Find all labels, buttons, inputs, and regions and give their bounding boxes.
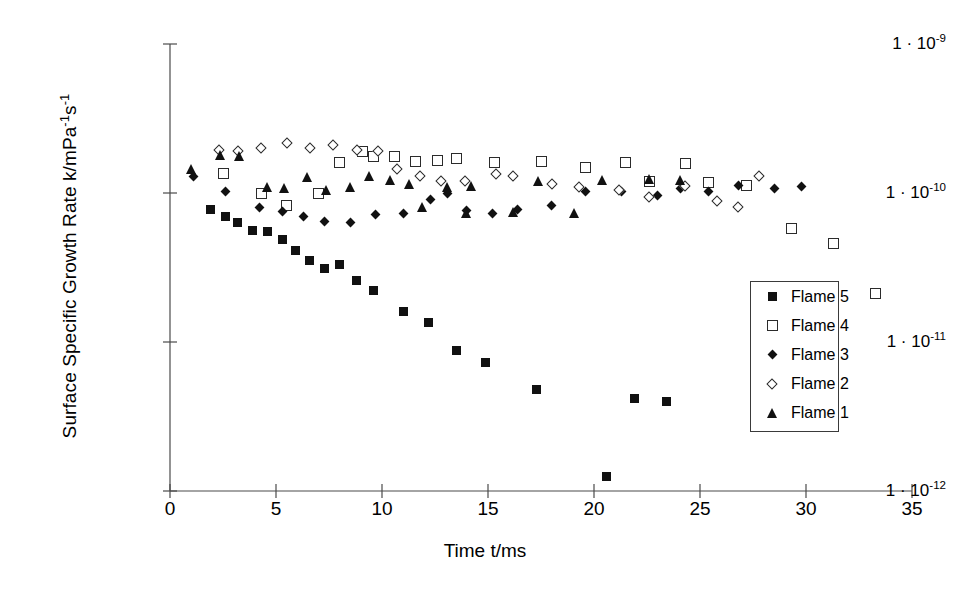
marker-filled-triangle [345,182,355,192]
marker-filled-square [399,307,408,316]
marker-open-square [786,223,797,234]
marker-filled-triangle [597,175,607,185]
marker-filled-triangle [417,202,427,212]
marker-filled-square [452,346,461,355]
marker-filled-triangle [186,164,196,174]
legend-label: Flame 2 [791,375,849,393]
marker-filled-triangle [364,171,374,181]
marker-filled-triangle [466,181,476,191]
x-tick-label: 15 [477,498,498,520]
marker-filled-square [369,286,378,295]
marker-open-square [334,157,345,168]
marker-filled-square [278,235,287,244]
x-tick-label: 35 [901,498,922,520]
marker-filled-square [424,318,433,327]
marker-filled-triangle [767,408,777,418]
marker-filled-triangle [569,208,579,218]
marker-filled-square [248,226,257,235]
marker-open-square [828,238,839,249]
legend-label: Flame 4 [791,317,849,335]
marker-filled-triangle [262,182,272,192]
marker-filled-square [768,292,777,301]
marker-filled-diamond [767,350,777,360]
legend-label: Flame 1 [791,404,849,422]
marker-filled-triangle [279,183,289,193]
marker-filled-square [602,472,611,481]
x-tick-label: 5 [271,498,282,520]
legend-item-flame-3[interactable]: Flame 3 [751,340,838,369]
marker-open-square [410,156,421,167]
marker-filled-square [662,397,671,406]
marker-filled-square [305,256,314,265]
legend-label: Flame 5 [791,288,849,306]
marker-filled-triangle [302,172,312,182]
chart-figure: Surface Specific Growth Rate k/mPa-1s-1 … [0,0,955,589]
marker-open-square [767,320,778,331]
legend-swatch-open-diamond-icon [764,376,780,392]
legend-item-flame-2[interactable]: Flame 2 [751,369,838,398]
legend-label: Flame 3 [791,346,849,364]
marker-open-square [680,158,691,169]
marker-open-square [389,151,400,162]
x-tick-label: 0 [165,498,176,520]
legend-swatch-filled-diamond-icon [764,347,780,363]
legend-swatch-filled-square-icon [764,289,780,305]
marker-filled-triangle [404,179,414,189]
marker-filled-triangle [234,151,244,161]
marker-filled-square [630,394,639,403]
marker-filled-square [352,276,361,285]
legend-item-flame-1[interactable]: Flame 1 [751,398,838,427]
marker-open-square [580,162,591,173]
marker-filled-triangle [644,174,654,184]
x-tick-label: 30 [795,498,816,520]
x-tick-label: 20 [583,498,604,520]
legend: Flame 5Flame 4Flame 3Flame 2Flame 1 [750,281,839,432]
x-tick-label: 25 [689,498,710,520]
marker-open-square [536,156,547,167]
legend-item-flame-5[interactable]: Flame 5 [751,282,838,311]
x-tick-label: 10 [371,498,392,520]
marker-filled-square [481,358,490,367]
marker-filled-square [206,205,215,214]
marker-filled-square [263,227,272,236]
marker-filled-triangle [442,182,452,192]
marker-filled-square [335,260,344,269]
marker-filled-square [221,212,230,221]
legend-swatch-filled-triangle-icon [764,405,780,421]
marker-open-square [489,157,500,168]
marker-filled-square [532,385,541,394]
marker-filled-triangle [533,176,543,186]
marker-open-diamond [766,378,777,389]
marker-open-square [451,153,462,164]
marker-filled-triangle [508,207,518,217]
marker-filled-triangle [385,175,395,185]
marker-open-square [620,157,631,168]
marker-open-square [218,168,229,179]
marker-filled-triangle [321,185,331,195]
marker-filled-triangle [215,150,225,160]
legend-swatch-open-square-icon [764,318,780,334]
marker-filled-square [291,246,300,255]
marker-open-square [870,288,881,299]
legend-item-flame-4[interactable]: Flame 4 [751,311,838,340]
marker-filled-square [320,264,329,273]
marker-filled-triangle [675,175,685,185]
marker-filled-square [233,218,242,227]
marker-open-square [432,155,443,166]
y-tick-label: 1 · 10-9 [776,34,955,54]
marker-filled-triangle [461,208,471,218]
